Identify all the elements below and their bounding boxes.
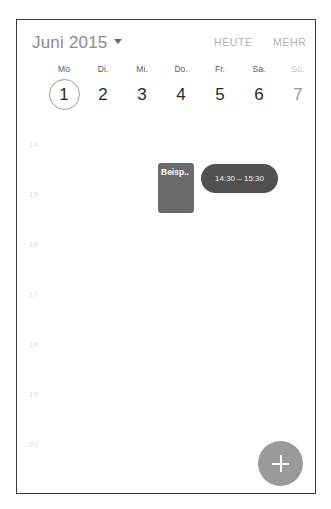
hour-label: 17 <box>29 290 38 299</box>
hour-label: 18 <box>29 340 38 349</box>
day-name: Mo <box>46 64 82 74</box>
day-number: 2 <box>85 82 121 108</box>
event-time-pill[interactable]: 14:30 – 15:30 <box>201 164 278 193</box>
hour-label: 15 <box>29 190 38 199</box>
caret-down-icon <box>114 39 122 44</box>
today-button[interactable]: HEUTE <box>214 36 253 48</box>
day-number: 3 <box>124 82 160 108</box>
day-number: 6 <box>241 82 277 108</box>
day-name: So. <box>280 64 316 74</box>
day-name: Di. <box>85 64 121 74</box>
month-label: Juni 2015 <box>32 33 108 52</box>
day-name: Fr. <box>202 64 238 74</box>
calendar-week-view: Juni 2015 HEUTE MEHR Mo 1 Di. 2 Mi. 3 Do… <box>16 19 316 494</box>
hour-label: 20 <box>29 440 38 449</box>
day-number: 5 <box>202 82 238 108</box>
hour-label: 16 <box>29 240 38 249</box>
event-block[interactable]: Beisp.. <box>158 163 194 213</box>
day-number: 7 <box>280 82 316 108</box>
hour-label: 19 <box>29 390 38 399</box>
month-selector[interactable]: Juni 2015 <box>32 33 122 53</box>
day-name: Do. <box>163 64 199 74</box>
day-name: Mi. <box>124 64 160 74</box>
day-number: 1 <box>46 82 82 108</box>
add-event-button[interactable] <box>258 441 303 486</box>
day-name: Sa. <box>241 64 277 74</box>
hour-label: 14 <box>29 140 38 149</box>
more-button[interactable]: MEHR <box>273 36 306 48</box>
day-number: 4 <box>163 82 199 108</box>
